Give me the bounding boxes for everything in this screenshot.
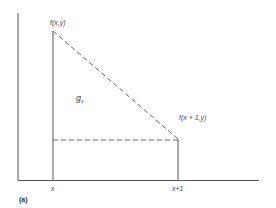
label-f-x-y: f(x,y) [50, 19, 66, 26]
diagram-canvas [0, 0, 276, 208]
diagonal-dashed-line [53, 31, 178, 139]
label-f-x-plus-1-y: f(x + 1,y) [179, 114, 206, 121]
figure-caption: (a) [19, 196, 28, 203]
tick-label-x-plus-1: x+1 [172, 185, 183, 192]
area-subscript: x [81, 98, 84, 104]
tick-label-x: x [51, 185, 55, 192]
label-g-x: gx [76, 94, 84, 104]
